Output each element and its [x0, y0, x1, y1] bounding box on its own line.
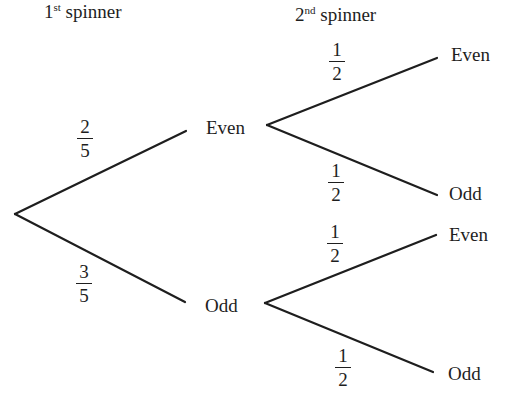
prob-numerator: 3 [79, 262, 89, 283]
prob-numerator: 1 [338, 346, 348, 367]
prob-first-odd: 3 5 [74, 262, 94, 305]
prob-numerator: 1 [330, 222, 340, 243]
prob-numerator: 2 [80, 117, 90, 138]
prob-odd-odd: 1 2 [333, 346, 353, 389]
node-even-even: Even [451, 45, 490, 64]
node-odd-odd: Odd [448, 364, 481, 383]
prob-denominator: 5 [79, 284, 89, 305]
prob-denominator: 2 [330, 244, 340, 265]
header-second-spinner: 2nd spinner [295, 5, 376, 24]
header-second-number: 2 [295, 4, 305, 25]
branch-odd-even [265, 235, 436, 303]
header-first-number: 1 [44, 1, 54, 22]
header-first-suffix: st [54, 1, 61, 13]
prob-denominator: 2 [338, 368, 348, 389]
prob-numerator: 1 [332, 40, 342, 61]
prob-first-even: 2 5 [75, 117, 95, 160]
header-first-text: spinner [61, 1, 122, 22]
prob-odd-even: 1 2 [325, 222, 345, 265]
prob-even-odd: 1 2 [326, 161, 346, 204]
prob-denominator: 2 [331, 183, 341, 204]
header-second-suffix: nd [305, 4, 316, 16]
node-first-odd: Odd [205, 296, 238, 315]
branch-first-odd [15, 214, 185, 302]
prob-numerator: 1 [331, 161, 341, 182]
header-second-text: spinner [316, 4, 377, 25]
prob-even-even: 1 2 [327, 40, 347, 83]
node-even-odd: Odd [449, 184, 482, 203]
tree-branches [0, 0, 513, 394]
prob-denominator: 2 [332, 62, 342, 83]
header-first-spinner: 1st spinner [44, 2, 122, 21]
node-first-even: Even [206, 118, 245, 137]
prob-denominator: 5 [80, 139, 90, 160]
branch-even-odd [267, 125, 437, 195]
branch-first-even [15, 131, 186, 214]
branch-even-even [267, 58, 437, 125]
node-odd-even: Even [449, 225, 488, 244]
